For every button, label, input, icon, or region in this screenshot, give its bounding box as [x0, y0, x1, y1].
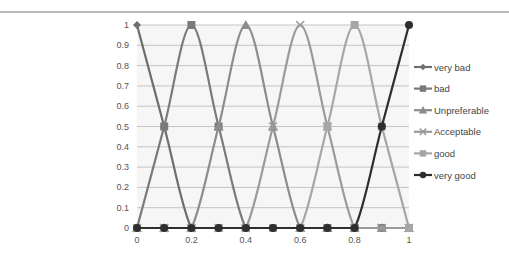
x-tick-label: 0 — [134, 235, 139, 245]
square-marker — [420, 85, 426, 91]
square-marker — [351, 21, 359, 29]
y-tick-label: 0.9 — [116, 40, 129, 50]
circle-marker — [296, 224, 304, 232]
legend-label: very bad — [434, 62, 470, 73]
legend-label: very good — [434, 170, 476, 181]
y-tick-label: 0.5 — [116, 122, 129, 132]
circle-marker — [323, 224, 331, 232]
y-tick-label: 0.2 — [116, 182, 129, 192]
circle-marker — [351, 224, 359, 232]
y-tick-label: 0.1 — [116, 203, 129, 213]
x-tick-label: 1 — [406, 235, 411, 245]
circle-marker — [269, 224, 277, 232]
legend-item: very good — [414, 170, 476, 181]
square-marker — [160, 123, 168, 131]
x-tick-label: 0.8 — [348, 235, 361, 245]
legend-item: very bad — [414, 62, 470, 73]
circle-marker — [133, 224, 141, 232]
legend-item: bad — [414, 83, 450, 94]
legend-label: Unpreferable — [434, 105, 489, 116]
x-tick-label: 0.6 — [294, 235, 307, 245]
legend-label: bad — [434, 83, 450, 94]
circle-marker — [160, 224, 168, 232]
x-tick-label: 0.2 — [185, 235, 198, 245]
circle-marker — [405, 21, 413, 29]
line-chart: 00.10.20.30.40.50.60.70.80.91 00.20.40.6… — [0, 0, 509, 255]
square-marker — [420, 150, 426, 156]
circle-marker — [242, 224, 250, 232]
y-tick-label: 0.6 — [116, 101, 129, 111]
diamond-marker — [420, 64, 426, 70]
x-axis-ticks: 00.20.40.60.81 — [134, 235, 411, 245]
y-tick-label: 0.8 — [116, 61, 129, 71]
y-tick-label: 0.3 — [116, 162, 129, 172]
legend-label: good — [434, 148, 455, 159]
square-marker — [405, 224, 413, 232]
y-tick-label: 0.4 — [116, 142, 129, 152]
x-tick-label: 0.4 — [240, 235, 253, 245]
legend-item: Acceptable — [414, 126, 481, 137]
circle-marker — [378, 123, 386, 131]
square-marker — [323, 123, 331, 131]
circle-marker — [420, 172, 426, 178]
y-tick-label: 0.7 — [116, 81, 129, 91]
square-marker — [187, 21, 195, 29]
circle-marker — [215, 224, 223, 232]
circle-marker — [187, 224, 195, 232]
legend: very badbadUnpreferableAcceptablegoodver… — [414, 62, 489, 181]
legend-item: Unpreferable — [414, 105, 489, 116]
y-tick-label: 1 — [124, 20, 129, 30]
y-tick-label: 0 — [124, 223, 129, 233]
legend-item: good — [414, 148, 455, 159]
legend-label: Acceptable — [434, 126, 481, 137]
y-axis-ticks: 00.10.20.30.40.50.60.70.80.91 — [116, 20, 129, 233]
